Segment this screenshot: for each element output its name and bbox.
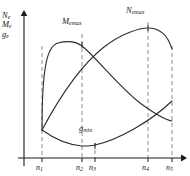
tick-label-n3: n3 (89, 163, 96, 172)
engine-characteristic-curve-figure: Ne Me ge Memax Nemax gmin n1 n2 n3 n4 n5 (0, 0, 190, 176)
y-axis-label-stack: Ne Me ge (2, 11, 22, 39)
tick-label-n1-sub: 1 (40, 166, 43, 172)
tick-label-n3-sub: 3 (93, 166, 96, 172)
y-axis-label-me-sub: e (9, 23, 12, 29)
plot-canvas (0, 0, 190, 176)
curves (42, 28, 172, 146)
tick-label-n5-sub: 5 (170, 166, 173, 172)
tick-label-n1: n1 (36, 163, 43, 172)
y-axis-label-ge: ge (2, 30, 22, 39)
x-axis-ticks (42, 158, 172, 162)
tick-label-n4: n4 (142, 163, 149, 172)
x-axis (18, 155, 187, 162)
annotation-nemax-sub: emax (132, 9, 145, 15)
annotation-gmin: gmin (79, 123, 92, 133)
annotation-memax: Memax (62, 16, 82, 26)
tick-label-n2: n2 (76, 163, 83, 172)
curve-ne-power (42, 28, 172, 130)
x-axis-arrowhead (181, 155, 187, 162)
annotation-nemax: Nemax (126, 5, 144, 15)
tick-label-n4-sub: 4 (146, 166, 149, 172)
annotation-memax-sub: emax (69, 20, 82, 26)
tick-label-n5: n5 (166, 163, 173, 172)
annotation-gmin-sub: min (83, 127, 92, 133)
tick-label-n2-sub: 2 (80, 166, 83, 172)
curve-ge-fuel (42, 101, 172, 146)
y-axis-label-ge-sub: e (6, 33, 9, 39)
